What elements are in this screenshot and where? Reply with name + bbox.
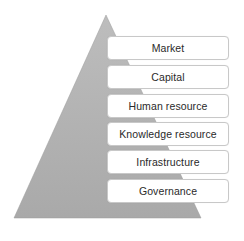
layer-governance: Governance bbox=[107, 179, 229, 203]
pyramid-diagram: Market Capital Human resource Knowledge … bbox=[0, 0, 244, 241]
layer-infrastructure: Infrastructure bbox=[107, 150, 229, 174]
layer-knowledge-resource: Knowledge resource bbox=[107, 122, 229, 146]
layer-label: Infrastructure bbox=[136, 156, 199, 168]
layer-label: Human resource bbox=[128, 100, 207, 112]
layer-human-resource: Human resource bbox=[107, 94, 229, 118]
layer-label: Market bbox=[152, 42, 185, 54]
layer-label: Knowledge resource bbox=[119, 128, 217, 140]
layer-capital: Capital bbox=[107, 65, 229, 89]
layer-market: Market bbox=[107, 36, 229, 60]
layer-label: Governance bbox=[139, 185, 197, 197]
layer-label: Capital bbox=[151, 71, 184, 83]
